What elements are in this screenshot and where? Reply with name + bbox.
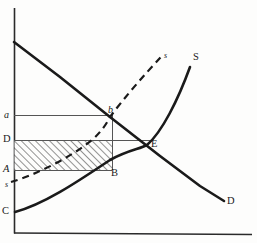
price-level-a-label: a — [4, 110, 9, 120]
point-B-label: B — [111, 168, 118, 179]
hatched-region — [15, 140, 113, 170]
x-axis — [14, 233, 252, 235]
supply-curve-label: S — [193, 52, 199, 63]
point-b-label: b — [108, 105, 113, 115]
price-level-D-label: D — [3, 134, 11, 145]
supply-intercept-label: C — [2, 206, 9, 217]
shifted-supply-start-label: s — [5, 181, 8, 189]
demand-curve — [14, 42, 224, 201]
supply-curve — [15, 67, 190, 212]
shifted-supply-end-label: s — [164, 52, 167, 60]
price-level-A-label: A — [3, 164, 9, 175]
diagram-canvas — [0, 0, 257, 243]
point-E-label: E — [151, 139, 157, 150]
supply-demand-figure: a D A s C b E B s S D — [0, 0, 257, 243]
demand-curve-label: D — [227, 196, 235, 207]
